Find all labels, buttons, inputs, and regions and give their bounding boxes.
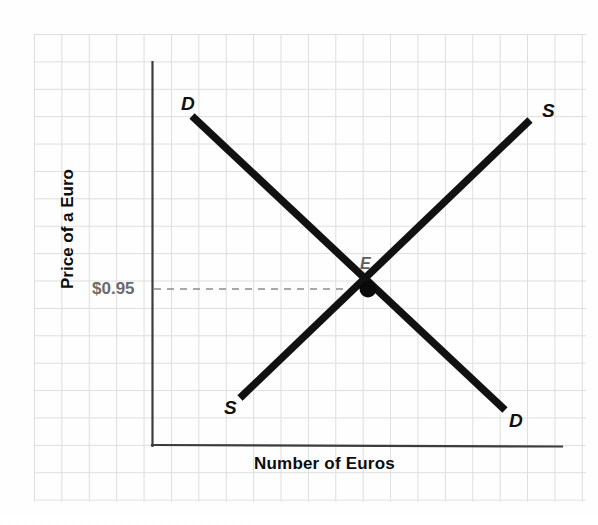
supply-demand-plot (0, 0, 598, 525)
demand-curve (192, 116, 505, 410)
demand-curve-label-bottom: D (509, 411, 523, 430)
x-axis-title: Number of Euros (254, 455, 395, 472)
y-axis-title-text: Price of a Euro (59, 169, 76, 289)
y-axis-tick-label-price: $0.95 (92, 280, 135, 297)
equilibrium-point-label: E (360, 256, 371, 272)
supply-curve-label-bottom: S (224, 398, 237, 417)
x-axis-line (152, 445, 562, 447)
supply-curve (240, 120, 530, 398)
supply-curve-label-top: S (542, 101, 555, 120)
equilibrium-point-marker (360, 281, 377, 298)
demand-curve-label-top: D (181, 94, 195, 113)
y-axis-title: Price of a Euro (57, 159, 77, 299)
